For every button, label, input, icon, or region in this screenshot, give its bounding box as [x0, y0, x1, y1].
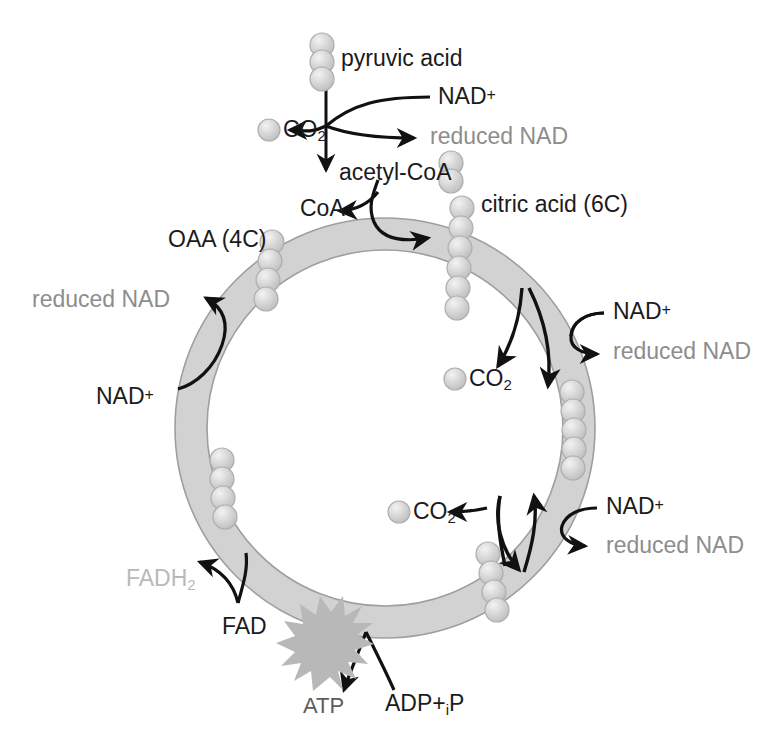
co2-lower-mid-text: CO	[413, 498, 448, 524]
label-acetyl-coa: acetyl-CoA	[339, 161, 451, 184]
label-nad-plus-top: NAD+	[438, 85, 496, 108]
label-adp-pi: ADP+iP	[385, 692, 464, 717]
label-atp: ATP	[303, 693, 344, 719]
label-nad-plus-right-lower: NAD+	[606, 495, 664, 518]
co2-mid-right-carbon	[444, 368, 466, 390]
diagram-canvas	[0, 0, 778, 756]
nad-plus-left-sign: +	[145, 386, 154, 403]
label-nad-plus-left: NAD+	[96, 385, 154, 408]
nad-plus-top-sign: +	[487, 86, 496, 103]
five-carbon-carbons	[560, 380, 586, 480]
fadh2-sub: 2	[187, 576, 195, 593]
fadh2-text: FADH	[126, 565, 187, 591]
nad-plus-right-lower-text: NAD	[606, 493, 655, 519]
co2-top-carbon	[258, 119, 280, 141]
label-fadh2: FADH2	[126, 567, 196, 592]
co2-mid-right-sub: 2	[504, 376, 512, 393]
nad-plus-right-upper-sign: +	[662, 301, 671, 318]
pyruvic-acid-carbons	[310, 33, 334, 91]
nad-plus-left-text: NAD	[96, 383, 145, 409]
nad-plus-top-text: NAD	[438, 83, 487, 109]
adp-tail-p: P	[449, 690, 464, 716]
label-nad-plus-right-upper: NAD+	[613, 300, 671, 323]
label-co2-mid-right: CO2	[469, 367, 512, 392]
label-reduced-nad-right-upper: reduced NAD	[613, 340, 751, 363]
adp-text: ADP+	[385, 690, 446, 716]
label-coa: CoA	[300, 197, 345, 220]
krebs-cycle-diagram: pyruvic acid NAD+ reduced NAD CO2 acetyl…	[0, 0, 778, 756]
co2-mid-right-text: CO	[469, 365, 504, 391]
label-pyruvic-acid: pyruvic acid	[341, 47, 462, 70]
label-fad: FAD	[222, 615, 267, 638]
co2-top-text: CO	[283, 116, 318, 142]
label-co2-top: CO2	[283, 118, 326, 143]
co2-top-sub: 2	[318, 127, 326, 144]
label-co2-lower-mid: CO2	[413, 500, 456, 525]
co2-lower-mid-sub: 2	[448, 509, 456, 526]
label-citric-acid: citric acid (6C)	[481, 193, 628, 216]
four-carbon-left-carbons	[210, 448, 237, 529]
label-oaa: OAA (4C)	[168, 228, 266, 251]
cycle-ring	[175, 218, 595, 638]
nad-plus-right-lower-sign: +	[655, 496, 664, 513]
label-reduced-nad-left: reduced NAD	[32, 288, 170, 311]
label-reduced-nad-right-lower: reduced NAD	[606, 534, 744, 557]
label-reduced-nad-top: reduced NAD	[430, 125, 568, 148]
nad-plus-right-upper-text: NAD	[613, 298, 662, 324]
co2-lower-mid-carbon	[388, 501, 410, 523]
